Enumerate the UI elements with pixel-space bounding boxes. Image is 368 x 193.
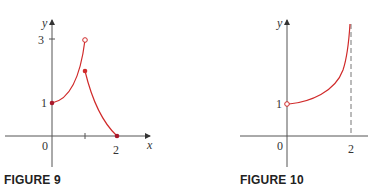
origin-label: 0: [42, 139, 48, 153]
filled-point-marker: [115, 134, 120, 139]
figure-9-caption: FIGURE 9: [4, 173, 61, 187]
filled-point-marker: [50, 101, 55, 106]
open-point-marker: [285, 102, 290, 107]
open-point-marker: [83, 38, 88, 43]
filled-point-marker: [83, 69, 88, 74]
x-axis-label: x: [146, 138, 153, 152]
curve: [289, 24, 350, 104]
origin-label: 0: [277, 139, 283, 153]
y-axis-label: y: [276, 16, 283, 30]
y-axis-label: y: [41, 16, 48, 30]
y-tick-label-1: 1: [41, 96, 47, 110]
figure-9-plot: y x 3 1 0 2: [5, 16, 153, 167]
x-tick-label-2: 2: [113, 143, 119, 157]
curve-piece-1: [52, 40, 85, 103]
y-tick-label-1: 1: [276, 97, 282, 111]
y-tick-label-3: 3: [38, 33, 44, 47]
figure-10-plot: y 1 0 2: [240, 16, 368, 167]
figures-canvas: y x 3 1 0 2 y 1 0 2: [0, 0, 368, 193]
curve-piece-2: [85, 71, 117, 136]
figure-10-caption: FIGURE 10: [240, 173, 304, 187]
x-tick-label-2: 2: [348, 142, 354, 156]
